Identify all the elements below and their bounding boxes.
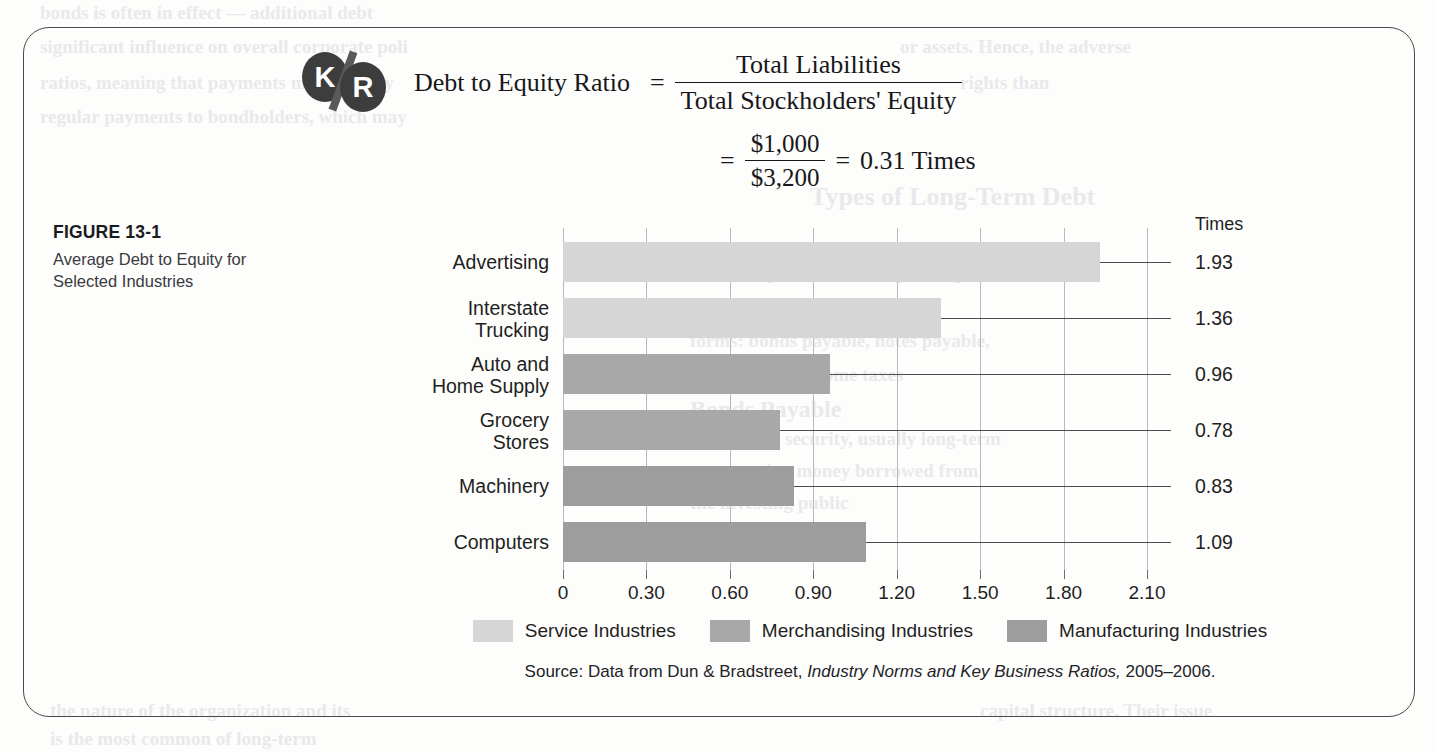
formula-denominator-1: Total Stockholders' Equity xyxy=(675,82,963,116)
value-leader-line xyxy=(794,486,1171,487)
x-axis-tick-label: 1.80 xyxy=(1045,582,1082,604)
category-label: Advertising xyxy=(395,252,563,274)
x-axis-tick xyxy=(980,570,981,579)
bar-row[interactable] xyxy=(563,522,1147,562)
value-label: 1.36 xyxy=(1195,307,1233,330)
formula-numerator-1: Total Liabilities xyxy=(675,50,963,82)
bar[interactable] xyxy=(563,354,830,394)
legend-label: Service Industries xyxy=(525,620,676,642)
x-axis-tick xyxy=(897,570,898,579)
x-axis-tick-label: 2.10 xyxy=(1129,582,1166,604)
formula-equals-3: = xyxy=(825,146,860,176)
formula-denominator-2: $3,200 xyxy=(745,160,826,192)
legend-item[interactable]: Manufacturing Industries xyxy=(1007,620,1267,642)
formula-label: Debt to Equity Ratio xyxy=(414,68,640,98)
formula-line-1: Debt to Equity Ratio = Total Liabilities… xyxy=(414,50,976,116)
bar[interactable] xyxy=(563,242,1100,282)
formula-equals-1: = xyxy=(640,68,675,98)
value-leader-line xyxy=(941,318,1171,319)
x-axis-tick xyxy=(646,570,647,579)
x-axis-tick xyxy=(563,570,564,579)
plot-area: Advertising1.93InterstateTrucking1.36Aut… xyxy=(563,242,1147,560)
x-axis-tick xyxy=(1064,570,1065,579)
source-title: Industry Norms and Key Business Ratios, xyxy=(807,662,1121,681)
category-label: GroceryStores xyxy=(395,410,563,454)
formula-fraction-2: $1,000 $3,200 xyxy=(745,130,826,192)
category-label: Machinery xyxy=(395,476,563,498)
value-label: 1.09 xyxy=(1195,531,1233,554)
legend-swatch xyxy=(1007,620,1047,642)
category-label-line: Interstate xyxy=(468,297,549,319)
formula-result: 0.31 Times xyxy=(860,146,976,176)
legend-swatch xyxy=(473,620,513,642)
x-axis-tick xyxy=(813,570,814,579)
legend-label: Merchandising Industries xyxy=(762,620,973,642)
figure-page: bonds is often in effect — additional de… xyxy=(0,0,1438,753)
category-label-line: Home Supply xyxy=(432,375,549,397)
figure-caption: FIGURE 13-1 Average Debt to Equity for S… xyxy=(53,222,303,293)
chart-legend: Service IndustriesMerchandising Industri… xyxy=(390,620,1350,642)
formula-numerator-2: $1,000 xyxy=(745,130,826,160)
key-ratio-formula: K R Debt to Equity Ratio = Total Liabili… xyxy=(300,42,976,192)
category-label-line: Machinery xyxy=(459,475,549,497)
formula-line-2: = $1,000 $3,200 = 0.31 Times xyxy=(710,130,976,192)
bar[interactable] xyxy=(563,466,794,506)
value-leader-line xyxy=(1100,262,1171,263)
value-label: 0.78 xyxy=(1195,419,1233,442)
source-prefix: Source: Data from Dun & Bradstreet, xyxy=(525,662,803,681)
x-axis-tick-label: 1.50 xyxy=(962,582,999,604)
bar-row[interactable] xyxy=(563,298,1147,338)
bar-row[interactable] xyxy=(563,354,1147,394)
category-label-line: Grocery xyxy=(480,409,549,431)
formula-math: Debt to Equity Ratio = Total Liabilities… xyxy=(414,42,976,192)
figure-caption-title: FIGURE 13-1 xyxy=(53,222,303,243)
x-axis-tick xyxy=(730,570,731,579)
legend-item[interactable]: Merchandising Industries xyxy=(710,620,973,642)
source-suffix: 2005–2006. xyxy=(1126,662,1216,681)
kr-logo-r-circle: R xyxy=(340,62,386,112)
category-label-line: Auto and xyxy=(471,353,549,375)
x-axis-tick-label: 0.30 xyxy=(628,582,665,604)
formula-equals-2: = xyxy=(710,146,745,176)
ghost-text: bonds is often in effect — additional de… xyxy=(40,2,373,24)
category-label: Computers xyxy=(395,532,563,554)
figure-source-note: Source: Data from Dun & Bradstreet, Indu… xyxy=(390,662,1350,682)
value-label: 0.96 xyxy=(1195,363,1233,386)
category-label-line: Computers xyxy=(454,531,549,553)
legend-swatch xyxy=(710,620,750,642)
ghost-text: is the most common of long-term xyxy=(50,728,316,750)
bar-row[interactable] xyxy=(563,466,1147,506)
value-leader-line xyxy=(830,374,1171,375)
x-axis: 00.300.600.901.201.501.802.10 xyxy=(563,570,1147,614)
category-label: InterstateTrucking xyxy=(395,298,563,342)
bar-row[interactable] xyxy=(563,410,1147,450)
category-label-line: Advertising xyxy=(453,251,549,273)
value-label: 1.93 xyxy=(1195,251,1233,274)
bar[interactable] xyxy=(563,410,780,450)
value-leader-line xyxy=(780,430,1171,431)
legend-item[interactable]: Service Industries xyxy=(473,620,676,642)
bar-chart: Times Advertising1.93InterstateTrucking1… xyxy=(390,222,1350,682)
key-ratio-logo-icon: K R xyxy=(300,46,392,112)
x-axis-tick-label: 0.90 xyxy=(795,582,832,604)
legend-label: Manufacturing Industries xyxy=(1059,620,1267,642)
x-axis-tick-label: 0 xyxy=(558,582,569,604)
gridline xyxy=(1147,228,1148,570)
bar[interactable] xyxy=(563,298,941,338)
x-axis-tick-label: 0.60 xyxy=(711,582,748,604)
category-label: Auto andHome Supply xyxy=(395,354,563,398)
x-axis-tick xyxy=(1147,570,1148,579)
value-label: 0.83 xyxy=(1195,475,1233,498)
bar-row[interactable] xyxy=(563,242,1147,282)
figure-caption-subtitle: Average Debt to Equity for Selected Indu… xyxy=(53,249,303,293)
formula-fraction-1: Total Liabilities Total Stockholders' Eq… xyxy=(675,50,963,116)
value-leader-line xyxy=(866,542,1171,543)
x-axis-tick-label: 1.20 xyxy=(878,582,915,604)
category-label-line: Trucking xyxy=(475,319,549,341)
category-label-line: Stores xyxy=(493,431,549,453)
value-axis-header: Times xyxy=(1195,214,1243,235)
bar[interactable] xyxy=(563,522,866,562)
